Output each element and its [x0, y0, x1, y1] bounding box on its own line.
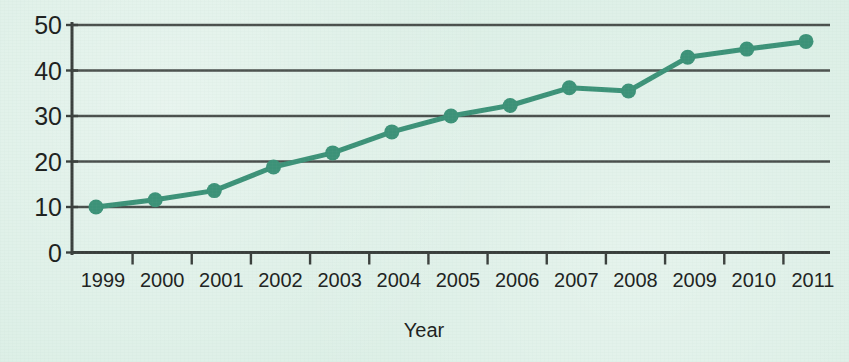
- y-tick-label: 30: [34, 102, 62, 130]
- x-tick-label: 2008: [613, 269, 658, 291]
- x-tick-label: 1999: [81, 269, 126, 291]
- y-tick-label: 40: [34, 57, 62, 85]
- x-tick-label: 2011: [791, 269, 834, 291]
- x-tick-labels-group: 1999200020012002200320042005200620072008…: [81, 269, 835, 291]
- x-tick-label: 2004: [377, 269, 422, 291]
- y-tick-label: 50: [34, 11, 62, 39]
- data-point: [266, 160, 281, 175]
- data-point: [621, 84, 636, 99]
- data-point: [89, 200, 104, 215]
- data-point: [207, 183, 222, 198]
- x-tick-label: 2006: [495, 269, 540, 291]
- data-point: [680, 50, 695, 65]
- data-point: [799, 34, 814, 49]
- series-markers-group: [89, 34, 814, 215]
- x-tick-label: 2009: [672, 269, 717, 291]
- x-tick-label: 2002: [258, 269, 303, 291]
- series-line: [96, 41, 806, 207]
- x-tick-label: 2003: [317, 269, 362, 291]
- data-point: [503, 98, 518, 113]
- x-axis-title: Year: [404, 319, 445, 341]
- x-tick-label: 2010: [732, 269, 777, 291]
- chart-container: 01020304050 1999200020012002200320042005…: [0, 0, 849, 362]
- data-point: [444, 109, 459, 124]
- y-tick-label: 10: [34, 193, 62, 221]
- data-point: [739, 42, 754, 57]
- x-tick-label: 2007: [554, 269, 599, 291]
- y-tick-label: 0: [48, 239, 62, 267]
- line-chart: 01020304050 1999200020012002200320042005…: [0, 0, 849, 362]
- data-point: [562, 80, 577, 95]
- y-tick-label: 20: [34, 148, 62, 176]
- x-tick-marks-group: [133, 253, 784, 265]
- data-point: [325, 145, 340, 160]
- data-point: [148, 192, 163, 207]
- x-tick-label: 2005: [436, 269, 481, 291]
- gridlines-group: [72, 25, 830, 253]
- x-tick-label: 2001: [199, 269, 244, 291]
- x-tick-label: 2000: [140, 269, 185, 291]
- data-point: [384, 124, 399, 139]
- series-group: [89, 34, 814, 215]
- x-axis-group: [72, 253, 830, 265]
